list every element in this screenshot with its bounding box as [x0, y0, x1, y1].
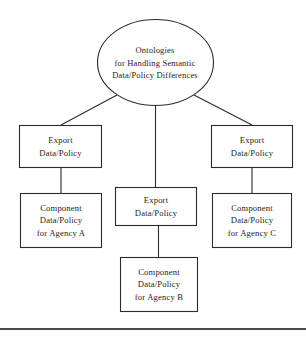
node-agency-a-box	[21, 194, 102, 248]
edge-root-to-export-left	[61, 95, 117, 125]
node-export-right-box	[212, 126, 293, 168]
node-root-ellipse	[98, 20, 214, 106]
node-export-left-box	[20, 126, 102, 168]
diagram-canvas	[0, 0, 306, 339]
node-agency-c-box	[213, 194, 292, 248]
node-export-center-box	[116, 188, 197, 226]
page-divider-rule	[0, 328, 306, 330]
figure-container: Ontologies for Handling Semantic Data/Po…	[0, 0, 306, 339]
node-agency-b-box	[121, 258, 198, 312]
edge-root-to-export-right	[194, 95, 252, 125]
